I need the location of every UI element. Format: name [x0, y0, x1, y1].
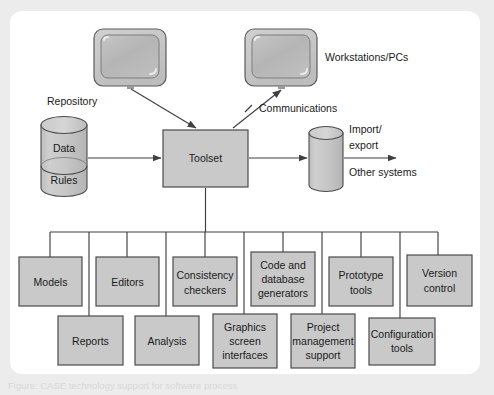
repository-section-rules: Rules [51, 174, 78, 186]
tool-box-analysis: Analysis [135, 316, 199, 365]
figure-caption-text: Figure: CASE technology support for soft… [8, 379, 308, 393]
repository-cylinder: Data Rules [41, 117, 87, 197]
tool-box-project-management-support: Project management support [291, 314, 355, 368]
workstation-right-monitor [245, 29, 317, 89]
tool-label: tools [350, 284, 372, 296]
tool-box-editors: Editors [96, 257, 159, 306]
tool-label: generators [258, 287, 308, 299]
tool-label: control [424, 282, 456, 294]
edge-workstation-left-to-toolset [131, 89, 196, 128]
import-export-label-line2: export [349, 139, 378, 151]
tool-box-version-control: Version control [407, 255, 472, 306]
tool-label: Editors [111, 276, 144, 288]
toolset-label: Toolset [189, 152, 222, 164]
tool-label: Models [34, 276, 68, 288]
communications-tick [245, 105, 252, 112]
tool-box-code-and-database-generators: Code and database generators [251, 252, 315, 306]
tool-box-reports: Reports [58, 316, 123, 365]
tool-label: support [305, 349, 340, 361]
figure-canvas: Workstations/PCs Repository Data Rules T… [0, 0, 494, 395]
tool-box-graphics-screen-interfaces: Graphics screen interfaces [213, 314, 277, 368]
workstations-label: Workstations/PCs [325, 51, 408, 63]
tool-label: database [261, 273, 304, 285]
tool-label: screen [229, 335, 261, 347]
tool-label: Project [307, 321, 340, 333]
tool-label: interfaces [222, 349, 268, 361]
tool-box-configuration-tools: Configuration tools [369, 318, 435, 365]
export-store-cylinder [309, 127, 343, 192]
workstation-left-monitor [94, 29, 166, 89]
toolset-node: Toolset [163, 130, 248, 187]
tool-label: Graphics [224, 321, 266, 333]
tool-box-consistency-checkers: Consistency checkers [173, 257, 237, 306]
tool-label: Reports [72, 335, 109, 347]
tool-label: checkers [184, 284, 226, 296]
tool-label: Configuration [371, 328, 434, 340]
tool-label: Code and [260, 259, 306, 271]
import-export-label-line1: Import/ [349, 123, 382, 135]
architecture-diagram: Workstations/PCs Repository Data Rules T… [0, 0, 494, 395]
tool-box-prototype-tools: Prototype tools [329, 257, 393, 306]
tool-label: Consistency [176, 269, 234, 281]
tool-label: Prototype [339, 269, 384, 281]
tool-label: Analysis [147, 335, 186, 347]
tool-box-models: Models [19, 257, 82, 306]
tool-label: tools [391, 342, 413, 354]
repository-label: Repository [47, 95, 98, 107]
repository-section-data: Data [53, 142, 75, 154]
tool-label: management [292, 335, 353, 347]
other-systems-label: Other systems [349, 166, 417, 178]
figure-caption: Figure: CASE technology support for soft… [8, 379, 308, 393]
tool-label: Version [422, 267, 457, 279]
communications-label: Communications [259, 102, 337, 114]
